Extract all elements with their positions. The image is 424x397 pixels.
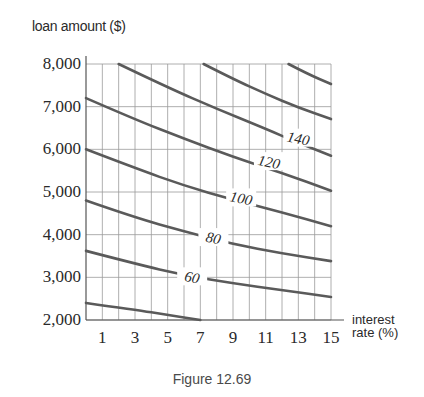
contour-line-100 bbox=[86, 149, 331, 226]
contour-plot: 6080100120140 bbox=[0, 0, 424, 397]
figure-caption: Figure 12.69 bbox=[0, 371, 424, 387]
contour-line-40 bbox=[86, 303, 200, 320]
contour-line-180 bbox=[289, 64, 331, 84]
contour-line-60 bbox=[86, 251, 331, 297]
